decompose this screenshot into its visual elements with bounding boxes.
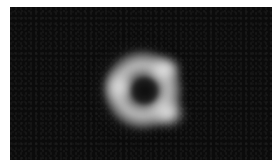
astronomical-image: Grayscale astronomical image of a glowin… [10, 7, 272, 160]
bright-knot-upper-right [150, 57, 180, 81]
bright-knot-left [105, 71, 133, 103]
central-shadow [130, 77, 160, 105]
bright-knot-lower-right [152, 99, 184, 127]
